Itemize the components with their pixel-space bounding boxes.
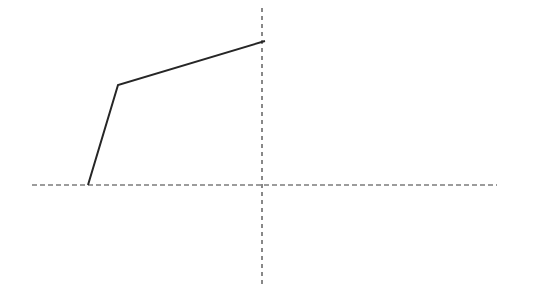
figure-canvas bbox=[0, 0, 541, 288]
plot-svg bbox=[0, 0, 541, 288]
plot-background bbox=[0, 0, 541, 288]
